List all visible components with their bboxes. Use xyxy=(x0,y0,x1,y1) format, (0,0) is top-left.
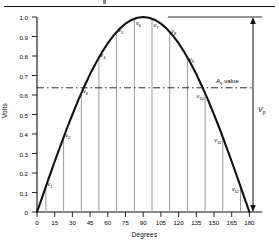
ordinate-label-v5: v5 xyxy=(118,27,123,35)
ordinate-label-v7: v7 xyxy=(154,22,159,30)
ordinate-label-v10: v10 xyxy=(197,93,204,101)
ordinate-label-v3: v3 xyxy=(83,88,88,96)
ordinate-label-v6: v6 xyxy=(136,20,141,28)
average-value-text: value xyxy=(222,77,239,84)
ordinate-label-v4: v4 xyxy=(101,52,106,60)
axes-group xyxy=(37,17,262,212)
y-tick-label: 0 xyxy=(2,209,28,216)
y-tick-label: 0.7 xyxy=(2,73,28,80)
x-tick-marks xyxy=(37,212,249,217)
x-axis-title: Degrees xyxy=(0,231,279,238)
y-tick-label: 1.0 xyxy=(2,14,28,21)
peak-voltage-annotation: Vp xyxy=(258,106,265,115)
y-tick-label: 0.3 xyxy=(2,151,28,158)
ordinate-label-v12: v12 xyxy=(232,186,239,194)
x-tick-label: 180 xyxy=(238,219,260,226)
x-axis-title-text: Degrees xyxy=(132,231,158,238)
y-tick-label: 0.2 xyxy=(2,170,28,177)
y-tick-label: 0.1 xyxy=(2,190,28,197)
y-axis-title: Volts xyxy=(1,85,8,96)
ordinate-label-v2: v2 xyxy=(65,132,70,140)
peak-voltage-dimension-arrow xyxy=(250,17,256,212)
average-value-annotation: Av value xyxy=(216,77,239,86)
y-axis-title-text: Volts xyxy=(1,107,8,118)
sine-wave-curve xyxy=(37,17,249,212)
y-tick-label: 0.4 xyxy=(2,131,28,138)
ordinate-label-v11: v11 xyxy=(214,137,221,145)
ordinate-label-v9: v9 xyxy=(189,56,194,64)
peak-voltage-subscript: p xyxy=(263,109,266,115)
ordinate-stems xyxy=(46,19,241,212)
ordinate-label-v8: v8 xyxy=(171,28,176,36)
chart-canvas xyxy=(0,0,279,244)
y-tick-marks xyxy=(32,17,37,212)
y-tick-label: 0.8 xyxy=(2,53,28,60)
y-tick-label: 0.9 xyxy=(2,34,28,41)
ordinate-label-v1: v1 xyxy=(48,181,53,189)
figure-root: 1.0 0.9 0.8 0.7 0.6 0.5 0.4 0.3 0.2 0.1 … xyxy=(0,0,279,244)
